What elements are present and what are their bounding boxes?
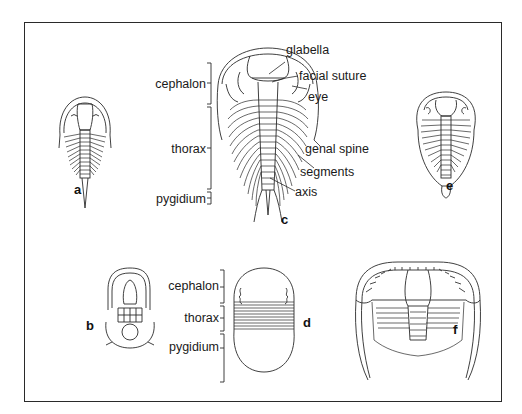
- label-glabella: glabella: [286, 43, 329, 57]
- specimen-label-a: a: [74, 182, 81, 197]
- specimen-label-b: b: [86, 318, 94, 333]
- specimen-label-d: d: [303, 315, 311, 330]
- label-genal-spine: genal spine: [305, 142, 369, 156]
- label-cephalon-c: cephalon: [130, 77, 206, 91]
- trilobite-d-drawing: [234, 268, 294, 372]
- specimen-label-c: c: [281, 212, 288, 227]
- label-facial-suture: facial suture: [299, 69, 366, 83]
- label-thorax-d: thorax: [140, 311, 219, 325]
- trilobite-f-drawing: [356, 262, 481, 380]
- label-thorax-c: thorax: [130, 142, 206, 156]
- label-eye: eye: [308, 90, 328, 104]
- label-axis: axis: [295, 185, 317, 199]
- label-segments: segments: [300, 165, 354, 179]
- label-pygidium-d: pygidium: [130, 340, 219, 354]
- specimen-label-e: e: [446, 178, 453, 193]
- label-pygidium-c: pygidium: [120, 192, 206, 206]
- trilobite-illustrations: [0, 0, 522, 414]
- label-cephalon-d: cephalon: [140, 279, 219, 293]
- specimen-label-f: f: [453, 322, 457, 337]
- c-brackets: [207, 63, 211, 204]
- trilobite-a-drawing: [59, 97, 111, 208]
- d-brackets: [220, 270, 224, 382]
